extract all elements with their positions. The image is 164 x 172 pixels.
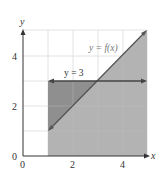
- fx-label: y = f(x): [88, 43, 118, 54]
- tick-y2: 2: [12, 101, 17, 112]
- y-axis-label: y: [19, 16, 25, 27]
- y3-label: y = 3: [64, 68, 84, 78]
- tick-x4: 4: [120, 159, 125, 170]
- tick-x2: 2: [70, 159, 75, 170]
- x-axis-label: x: [150, 150, 156, 161]
- tick-y0: 0: [12, 151, 17, 162]
- tick-y4: 4: [12, 51, 17, 62]
- tick-x0: 0: [20, 159, 25, 170]
- chart: y x 4 2 0 0 2 4 y = f(x) y = 3: [0, 0, 164, 172]
